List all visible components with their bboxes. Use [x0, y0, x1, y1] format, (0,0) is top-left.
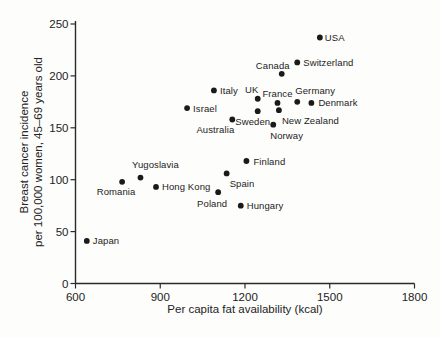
y-axis-title-line1: Breast cancer incidence	[17, 27, 31, 277]
data-point-switzerland	[294, 60, 300, 66]
point-label-italy: Italy	[220, 85, 238, 96]
data-point-spain	[224, 171, 230, 177]
data-point-new-zealand	[276, 107, 282, 113]
point-label-denmark: Denmark	[318, 97, 357, 108]
x-tick-label: 1200	[232, 291, 258, 303]
x-tick-label: 900	[151, 291, 170, 303]
data-point-denmark	[308, 100, 314, 106]
y-tick-label: 150	[49, 122, 68, 134]
y-tick-label: 250	[49, 18, 68, 30]
data-point-japan	[84, 238, 90, 244]
data-point-israel	[184, 105, 190, 111]
x-tick-label: 1800	[402, 291, 428, 303]
point-label-switzerland: Switzerland	[303, 57, 353, 68]
y-tick-label: 0	[62, 278, 68, 290]
point-label-france: France	[262, 88, 292, 99]
point-label-romania: Romania	[97, 186, 136, 197]
data-point-canada	[279, 71, 285, 77]
data-point-romania	[119, 179, 125, 185]
y-axis-title: Breast cancer incidence per 100,000 wome…	[17, 27, 47, 277]
point-label-poland: Poland	[197, 198, 227, 209]
y-tick-label: 200	[49, 70, 68, 82]
data-point-germany	[294, 99, 300, 105]
point-label-spain: Spain	[230, 178, 255, 189]
point-label-finland: Finland	[253, 156, 285, 167]
data-point-yugoslavia	[138, 175, 144, 181]
data-point-usa	[317, 35, 323, 41]
point-label-germany: Germany	[295, 85, 335, 96]
point-label-uk: UK	[245, 84, 259, 95]
y-tick-label: 50	[56, 226, 69, 238]
point-label-australia: Australia	[196, 124, 234, 135]
data-point-uk	[255, 96, 261, 102]
data-point-sweden	[255, 108, 261, 114]
data-point-france	[275, 100, 281, 106]
point-label-sweden: Sweden	[235, 116, 270, 127]
x-axis-title: Per capita fat availability (kcal)	[75, 303, 415, 315]
y-tick-label: 100	[49, 174, 68, 186]
point-label-hungary: Hungary	[247, 200, 284, 211]
point-label-hong-kong: Hong Kong	[162, 181, 210, 192]
data-point-finland	[244, 158, 250, 164]
data-point-norway	[270, 122, 276, 128]
point-label-israel: Israel	[193, 103, 217, 114]
point-label-canada: Canada	[256, 60, 290, 71]
data-point-poland	[215, 189, 221, 195]
breast-cancer-fat-scatter-figure: 050100150200250600900120015001800JapanRo…	[0, 0, 440, 337]
data-point-hong-kong	[153, 184, 159, 190]
data-point-hungary	[238, 203, 244, 209]
point-label-usa: USA	[325, 32, 345, 43]
point-label-japan: Japan	[93, 235, 119, 246]
scatter-plot-canvas: 050100150200250600900120015001800JapanRo…	[0, 0, 440, 337]
point-label-norway: Norway	[270, 130, 303, 141]
y-axis-title-line2: per 100,000 women, 45–69 years old	[31, 27, 45, 277]
data-point-italy	[211, 88, 217, 94]
point-label-new-zealand: New Zealand	[282, 115, 339, 126]
point-label-yugoslavia: Yugoslavia	[132, 159, 180, 170]
x-tick-label: 600	[66, 291, 85, 303]
x-tick-label: 1500	[317, 291, 343, 303]
